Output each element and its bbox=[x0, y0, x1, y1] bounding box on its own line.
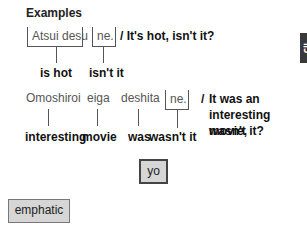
connector-line bbox=[138, 109, 139, 126]
jp-word-eiga: eiga bbox=[87, 91, 110, 105]
translation-2-slash: / bbox=[201, 92, 204, 106]
particle-box-yo: yo bbox=[139, 159, 168, 184]
en-word-interesting: interesting bbox=[25, 130, 86, 144]
jp-word-ne-2: ne. bbox=[170, 92, 187, 106]
en-word-isnt-it: isn't it bbox=[89, 66, 124, 80]
translation-2-line-1: It was an bbox=[209, 91, 260, 107]
connector-line bbox=[56, 47, 57, 63]
translation-2-line-3: wasn't it? bbox=[209, 123, 264, 139]
en-word-is-hot: is hot bbox=[40, 66, 72, 80]
connector-line bbox=[48, 109, 49, 126]
side-chapter-tab[interactable]: き bbox=[300, 33, 307, 63]
en-word-movie: movie bbox=[82, 130, 117, 144]
connector-line bbox=[177, 110, 178, 128]
en-word-wasnt-it: wasn't it bbox=[149, 130, 197, 144]
particle-box-emphatic: emphatic bbox=[8, 199, 70, 223]
en-word-was: was bbox=[128, 130, 151, 144]
examples-heading: Examples bbox=[26, 6, 82, 20]
jp-word-omoshiroi: Omoshiroi bbox=[26, 91, 81, 105]
jp-word-ne: ne. bbox=[97, 29, 114, 43]
translation-1: / It's hot, isn't it? bbox=[120, 29, 214, 43]
connector-line bbox=[97, 109, 98, 126]
jp-word-atsui-desu: Atsui desu bbox=[32, 29, 88, 43]
jp-word-deshita: deshita bbox=[121, 91, 160, 105]
connector-line bbox=[103, 47, 104, 63]
